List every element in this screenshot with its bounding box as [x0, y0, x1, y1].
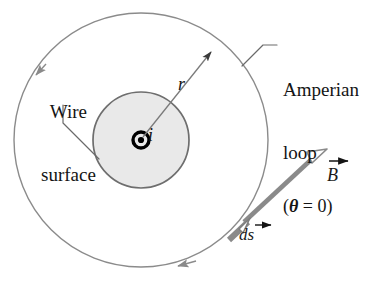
amperian-loop-label-line2: loop	[283, 142, 359, 163]
theta-value: = 0)	[298, 196, 332, 216]
wire-surface-label: Wire surface	[41, 58, 96, 228]
wire-surface-label-line1: Wire	[41, 101, 96, 122]
current-label: i	[148, 126, 153, 145]
theta-angle-label: (θ = 0)	[283, 197, 333, 216]
amperian-loop-figure: Amperian loop Wire surface r i (θ = 0) B…	[0, 0, 388, 284]
ds-element-label-glyph: ds	[239, 226, 254, 243]
wire-surface-label-line2: surface	[41, 164, 96, 185]
ds-element-label: ds	[239, 226, 254, 243]
amperian-loop-label-line1: Amperian	[283, 79, 359, 100]
b-field-label: B	[327, 166, 338, 184]
loop-direction-arrow-bottom	[178, 261, 196, 266]
amperian-loop-leader-line	[242, 45, 277, 66]
amperian-loop-label: Amperian loop	[283, 36, 359, 206]
b-field-label-glyph: B	[327, 166, 338, 184]
theta-symbol: θ	[289, 196, 298, 216]
radius-label: r	[178, 75, 185, 94]
